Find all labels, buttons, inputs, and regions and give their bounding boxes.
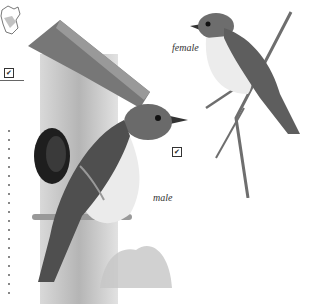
map-checkbox[interactable]: ✔ [4,68,14,78]
page-edge [8,130,10,300]
female-bird [188,10,304,136]
male-label: male [153,192,172,203]
bush [96,230,176,290]
range-map-icon [0,4,22,42]
male-checkbox[interactable]: ✔ [172,147,182,157]
female-label: female [172,42,199,53]
illustration: ✔ ✔ male [0,0,322,304]
